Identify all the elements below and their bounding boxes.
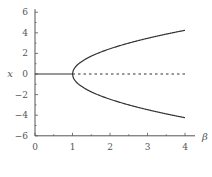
x-tick-label: 4 [182, 142, 188, 152]
y-tick-label: 2 [22, 48, 28, 58]
x-tick-label: 2 [107, 142, 113, 152]
bifurcation-chart: 6420−2−4−601234xβ [0, 0, 212, 177]
series-lower-branch [73, 74, 186, 118]
y-tick-label: −2 [15, 90, 28, 100]
y-axis-label: x [7, 68, 13, 79]
y-tick-label: 0 [22, 69, 28, 79]
x-tick-label: 0 [32, 142, 38, 152]
x-tick-label: 3 [145, 142, 151, 152]
x-axis-label: β [201, 131, 208, 142]
y-tick-label: −4 [15, 110, 29, 120]
series-upper-branch [73, 30, 186, 74]
y-tick-label: −6 [15, 131, 29, 141]
x-tick-label: 1 [70, 142, 76, 152]
y-tick-label: 6 [22, 7, 28, 17]
y-tick-label: 4 [22, 28, 28, 38]
